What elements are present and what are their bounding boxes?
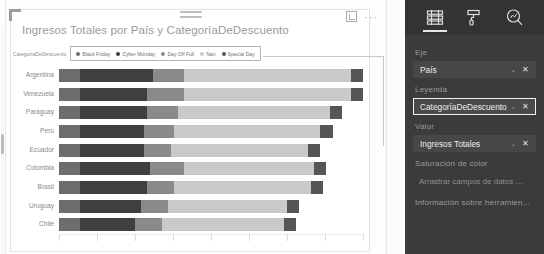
legend-item[interactable]: Cyber Monday xyxy=(116,51,155,57)
field-drop-zone[interactable]: Arrastrar campos de datos ... xyxy=(413,172,536,191)
field-chip[interactable]: País⌄✕ xyxy=(413,61,536,78)
field-chip[interactable]: Ingresos Totales⌄✕ xyxy=(413,135,536,152)
bar-segment[interactable] xyxy=(287,200,299,213)
bar-segment[interactable] xyxy=(80,162,150,175)
bar-segment[interactable] xyxy=(314,162,326,175)
bar-row[interactable] xyxy=(59,200,363,213)
bar-segment[interactable] xyxy=(171,144,308,157)
bar-segment[interactable] xyxy=(311,181,323,194)
bar-row[interactable] xyxy=(59,181,363,194)
bar-segment[interactable] xyxy=(80,144,144,157)
fields-tab[interactable] xyxy=(420,5,450,31)
bar-row[interactable] xyxy=(59,162,363,175)
bar-segment[interactable] xyxy=(59,106,80,119)
field-chip[interactable]: CategoríaDeDescuento⌄✕ xyxy=(413,98,536,115)
visual-header-actions: ··· xyxy=(346,11,378,22)
bar-segment[interactable] xyxy=(284,218,296,231)
bar-segment[interactable] xyxy=(144,144,171,157)
bar-segment[interactable] xyxy=(135,218,162,231)
bar-segment[interactable] xyxy=(330,106,342,119)
y-axis-label: Brasil xyxy=(10,183,54,190)
bar-segment[interactable] xyxy=(59,181,80,194)
visual-drag-handle[interactable] xyxy=(180,11,202,20)
bar-segment[interactable] xyxy=(147,106,177,119)
close-icon[interactable]: ✕ xyxy=(522,66,529,74)
bar-segment[interactable] xyxy=(351,88,363,101)
chevron-down-icon[interactable]: ⌄ xyxy=(511,103,516,110)
y-axis-label: Colombia xyxy=(10,164,54,171)
bar-segment[interactable] xyxy=(168,200,287,213)
y-axis-label: Perú xyxy=(10,127,54,134)
bar-segment[interactable] xyxy=(80,106,147,119)
chevron-down-icon[interactable]: ⌄ xyxy=(511,66,516,73)
bar-segment[interactable] xyxy=(351,69,363,82)
pane-tabs[interactable] xyxy=(405,0,544,35)
y-axis-label: Paraguay xyxy=(10,108,54,115)
field-wells[interactable]: EjePaís⌄✕LeyendaCategoríaDeDescuento⌄✕Va… xyxy=(405,35,544,207)
bar-segment[interactable] xyxy=(147,88,183,101)
bar-row[interactable] xyxy=(59,218,363,231)
chevron-down-icon[interactable]: ⌄ xyxy=(511,140,516,147)
bar-segment[interactable] xyxy=(80,125,144,138)
bar-segment[interactable] xyxy=(174,125,320,138)
bar-segment[interactable] xyxy=(59,200,80,213)
bar-row[interactable] xyxy=(59,125,363,138)
chart-plot-area[interactable]: ArgentinaVenezuelaParaguayPerúEcuadorCol… xyxy=(13,66,363,248)
analytics-tab[interactable] xyxy=(499,5,529,31)
bar-segment[interactable] xyxy=(80,88,147,101)
bar-segment[interactable] xyxy=(59,218,80,231)
bar-segment[interactable] xyxy=(184,69,351,82)
legend-swatch-icon xyxy=(222,52,226,56)
bar-segment[interactable] xyxy=(320,125,332,138)
bar-row[interactable] xyxy=(59,69,363,82)
bar-segment[interactable] xyxy=(80,218,135,231)
legend-item[interactable]: Special Day xyxy=(222,51,255,57)
bar-segment[interactable] xyxy=(184,88,351,101)
close-icon[interactable]: ✕ xyxy=(522,140,529,148)
format-tab[interactable] xyxy=(459,5,489,31)
focus-mode-icon[interactable] xyxy=(346,11,357,22)
more-options-icon[interactable]: ··· xyxy=(364,13,378,21)
chart-legend[interactable]: CategoríaDeDescuento Black FridayCyber M… xyxy=(13,46,261,61)
bar-segment[interactable] xyxy=(59,125,80,138)
x-gridline xyxy=(325,234,326,241)
bar-segment[interactable] xyxy=(178,106,330,119)
bar-segment[interactable] xyxy=(153,69,183,82)
bar-segment[interactable] xyxy=(59,144,80,157)
panel-gutter xyxy=(386,0,406,254)
bar-row[interactable] xyxy=(59,144,363,157)
canvas-scrollbar-thumb[interactable] xyxy=(1,134,4,154)
power-bi-report-view: ··· Ingresos Totales por País y Categorí… xyxy=(0,0,544,254)
visual-resize-handle[interactable] xyxy=(9,9,21,21)
bar-segment[interactable] xyxy=(80,200,141,213)
x-gridline xyxy=(59,234,60,241)
legend-item[interactable]: Day Off Full xyxy=(161,51,194,57)
bar-segment[interactable] xyxy=(59,88,80,101)
bar-segment[interactable] xyxy=(150,162,183,175)
bar-segment[interactable] xyxy=(80,181,147,194)
bar-segment[interactable] xyxy=(144,125,174,138)
bar-segment[interactable] xyxy=(80,69,153,82)
field-chip-label: CategoríaDeDescuento xyxy=(420,102,509,112)
well-label: Leyenda xyxy=(415,85,536,94)
legend-item[interactable]: Black Friday xyxy=(76,51,110,57)
bar-segment[interactable] xyxy=(141,200,168,213)
bar-segment[interactable] xyxy=(184,162,315,175)
legend-items-box[interactable]: Black FridayCyber MondayDay Off FullNanS… xyxy=(70,46,261,61)
bar-row[interactable] xyxy=(59,88,363,101)
legend-swatch-icon xyxy=(161,52,165,56)
legend-title: CategoríaDeDescuento xyxy=(13,50,66,56)
canvas-scrollbar[interactable] xyxy=(1,30,4,254)
legend-item[interactable]: Nan xyxy=(200,51,215,57)
bar-row[interactable] xyxy=(59,106,363,119)
bar-segment[interactable] xyxy=(162,218,284,231)
bar-segment[interactable] xyxy=(174,181,311,194)
bar-segment[interactable] xyxy=(147,181,174,194)
bar-segment[interactable] xyxy=(59,69,80,82)
visual-title: Ingresos Totales por País y CategoríaDeD… xyxy=(22,24,289,36)
visualizations-pane[interactable]: EjePaís⌄✕LeyendaCategoríaDeDescuento⌄✕Va… xyxy=(405,0,544,254)
report-canvas[interactable]: ··· Ingresos Totales por País y Categorí… xyxy=(0,0,386,254)
bar-segment[interactable] xyxy=(59,162,80,175)
bar-segment[interactable] xyxy=(308,144,320,157)
close-icon[interactable]: ✕ xyxy=(522,103,529,111)
